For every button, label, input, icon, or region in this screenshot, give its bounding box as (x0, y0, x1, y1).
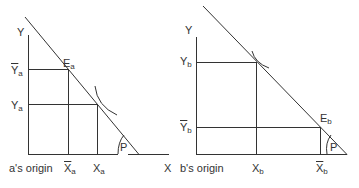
a-x-axis-label: X (164, 163, 171, 174)
b-origin-label: b's origin (180, 163, 224, 174)
a-y-axis-label: Y (17, 27, 24, 38)
a-angle-label: P (120, 142, 127, 153)
a-budget-line (25, 17, 139, 155)
a-y-label: Ya (11, 100, 23, 114)
b-x-label: Xb (252, 163, 264, 177)
b-ybar-label: Yb (180, 122, 192, 136)
a-origin-label: a's origin (9, 163, 53, 174)
a-indifference-curve (95, 86, 117, 115)
a-endowment-label: Ea (63, 58, 75, 72)
diagram-canvas (0, 0, 359, 188)
b-endowment-label: Eb (320, 113, 332, 127)
a-xbar-label: Xa (64, 163, 76, 177)
b-angle-label: P (330, 142, 337, 153)
b-xbar-label: Xb (316, 163, 328, 177)
b-y-axis-label: Y (185, 25, 192, 36)
a-ybar-label: Ya (11, 65, 23, 79)
b-budget-line (203, 6, 347, 155)
b-y-label: Yb (180, 56, 192, 70)
a-x-label: Xa (93, 163, 105, 177)
